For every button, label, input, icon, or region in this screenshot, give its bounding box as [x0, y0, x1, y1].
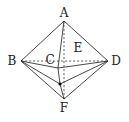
label-b: B — [8, 54, 17, 68]
label-d: D — [111, 54, 121, 68]
marked-point — [58, 82, 61, 85]
octahedron-diagram: A B C D E F — [0, 0, 129, 122]
edge-cp — [58, 68, 60, 84]
edge-bf — [21, 61, 64, 99]
label-e: E — [74, 41, 83, 55]
edge-ad — [64, 21, 108, 61]
edge-ab — [21, 21, 64, 61]
label-f: F — [60, 101, 68, 115]
label-c: C — [45, 53, 54, 67]
edge-df — [64, 61, 108, 99]
label-a: A — [59, 6, 69, 20]
edges — [21, 21, 108, 99]
